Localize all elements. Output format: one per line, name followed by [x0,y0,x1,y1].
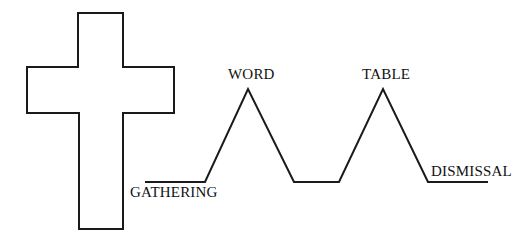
label-table: TABLE [362,66,410,83]
label-gathering: GATHERING [130,184,218,201]
label-dismissal: DISMISSAL [431,163,512,180]
label-word: WORD [228,66,275,83]
diagram-canvas [0,0,528,244]
